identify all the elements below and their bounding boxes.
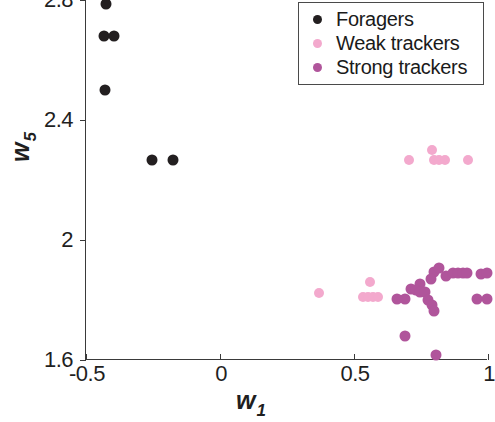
data-point [404,155,414,165]
x-axis-tick-label: 0.5 [340,361,369,387]
x-axis-label-subscript: 1 [256,401,265,420]
legend-item[interactable]: Weak trackers [305,31,477,55]
data-point [481,268,492,279]
x-axis-label-base: w [236,386,255,414]
x-axis-tick: -0.5 [86,354,87,360]
data-point [430,349,441,360]
y-axis-tick: 2.8 [80,0,86,1]
y-axis-tick-label: 2 [61,227,73,253]
y-axis-tick: 2.4 [80,120,86,121]
x-axis-tick: 0.5 [354,354,355,360]
x-axis-label: w1 [236,386,266,421]
y-axis-label: w5 [6,132,41,162]
data-point [429,306,440,317]
legend-marker-icon [313,63,322,72]
data-point [101,0,112,9]
y-axis-label-base: w [6,143,34,162]
y-axis-tick-label: 2.8 [44,0,73,13]
data-point [461,268,472,279]
x-axis-tick: 0 [220,354,221,360]
data-point [481,293,492,304]
chart-legend: ForagersWeak trackersStrong trackers [298,2,484,85]
x-axis-tick-label: 1 [483,361,495,387]
legend-item-label: Foragers [336,8,414,31]
data-point [399,331,410,342]
legend-item-label: Weak trackers [336,32,460,55]
legend-item[interactable]: Strong trackers [305,55,477,79]
data-point [314,288,324,298]
data-point [391,293,402,304]
data-point [463,155,473,165]
data-point [146,154,157,165]
data-point [427,145,437,155]
x-axis-tick-label: 0 [215,361,227,387]
y-axis-tick-label: 2.4 [44,107,73,133]
data-point [440,155,450,165]
legend-item[interactable]: Foragers [305,7,477,31]
data-point [425,274,436,285]
data-point [167,154,178,165]
data-point [100,85,111,96]
legend-marker-icon [313,15,322,24]
x-axis-tick: 1 [488,354,489,360]
legend-marker-icon [313,39,322,48]
data-point [373,292,383,302]
x-axis-tick-label: -0.5 [69,361,105,387]
y-axis-label-subscript: 5 [21,132,40,141]
legend-item-label: Strong trackers [336,56,467,79]
y-axis-tick: 2 [80,240,86,241]
data-point [365,277,375,287]
data-point [109,31,120,42]
